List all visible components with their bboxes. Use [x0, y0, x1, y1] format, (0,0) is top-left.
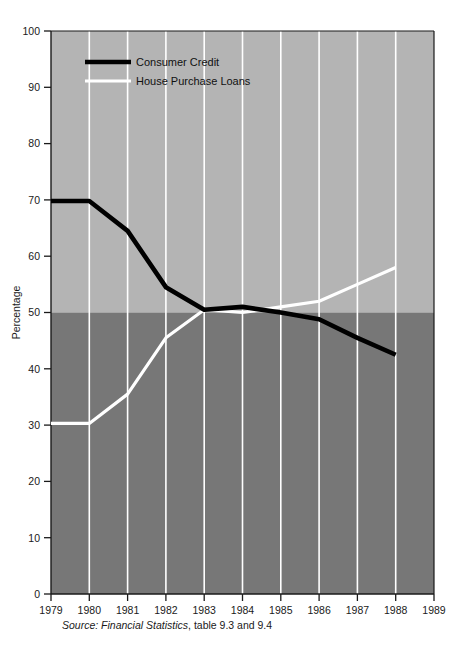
legend-label-house-purchase-loans: House Purchase Loans — [136, 75, 251, 87]
y-tick-label-40: 40 — [28, 363, 40, 375]
y-tick-label-20: 20 — [28, 475, 40, 487]
x-axis: 1979198019811982198319841985198619871988… — [39, 594, 446, 616]
x-tick-label-1985: 1985 — [269, 604, 293, 616]
x-tick-label-1989: 1989 — [422, 604, 446, 616]
legend-label-consumer-credit: Consumer Credit — [136, 56, 219, 68]
x-tick-label-1984: 1984 — [231, 604, 255, 616]
source-note-tables: , table 9.3 and 9.4 — [188, 619, 272, 631]
y-tick-label-0: 0 — [34, 588, 40, 600]
line-chart: 0102030405060708090100 19791980198119821… — [0, 0, 453, 652]
source-note-publication: Source: Financial Statistics — [62, 619, 189, 631]
x-tick-label-1988: 1988 — [384, 604, 408, 616]
x-tick-label-1981: 1981 — [116, 604, 140, 616]
x-tick-label-1987: 1987 — [346, 604, 370, 616]
y-axis: 0102030405060708090100 — [22, 25, 51, 600]
x-tick-label-1982: 1982 — [154, 604, 178, 616]
x-tick-label-1979: 1979 — [39, 604, 63, 616]
y-tick-label-90: 90 — [28, 81, 40, 93]
y-tick-label-10: 10 — [28, 532, 40, 544]
source-note: Source: Financial Statistics, table 9.3 … — [62, 619, 272, 631]
x-tick-label-1983: 1983 — [193, 604, 217, 616]
x-tick-label-1980: 1980 — [78, 604, 102, 616]
y-tick-label-30: 30 — [28, 419, 40, 431]
y-axis-title: Percentage — [10, 285, 22, 339]
y-tick-label-80: 80 — [28, 137, 40, 149]
chart-container: 0102030405060708090100 19791980198119821… — [0, 0, 453, 652]
y-tick-label-50: 50 — [28, 306, 40, 318]
x-tick-label-1986: 1986 — [307, 604, 331, 616]
y-tick-label-60: 60 — [28, 250, 40, 262]
y-tick-label-100: 100 — [22, 25, 40, 37]
y-tick-label-70: 70 — [28, 194, 40, 206]
